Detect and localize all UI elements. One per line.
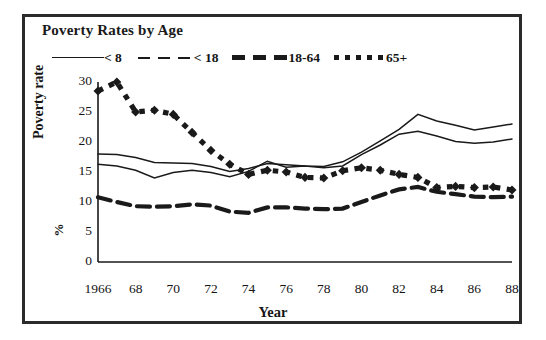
series-marker-65plus: [338, 166, 347, 175]
data-series-group: [93, 77, 516, 212]
series-line-8: [98, 114, 512, 171]
series-line-18: [98, 131, 512, 178]
axis-lines: [98, 82, 512, 262]
plot-area: [0, 0, 546, 340]
series-marker-65plus: [413, 173, 422, 182]
series-marker-65plus: [319, 173, 328, 182]
series-marker-65plus: [376, 166, 385, 175]
series-line-18-64: [98, 187, 512, 213]
series-marker-65plus: [206, 146, 215, 155]
series-marker-65plus: [225, 160, 234, 169]
series-marker-65plus: [150, 106, 159, 115]
x-axis-label: Year: [0, 304, 546, 321]
series-marker-65plus: [489, 182, 498, 191]
poverty-rates-figure: Poverty Rates by Age < 8 < 18 18-64 65+ …: [0, 0, 546, 340]
series-marker-65plus: [357, 163, 366, 172]
series-marker-65plus: [470, 183, 479, 192]
series-marker-65plus: [395, 170, 404, 179]
series-marker-65plus: [507, 185, 516, 194]
series-marker-65plus: [451, 182, 460, 191]
